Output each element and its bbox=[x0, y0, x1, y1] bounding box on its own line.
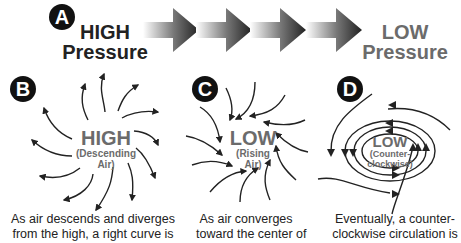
caption-d-line1: Eventually, a counter- bbox=[330, 212, 460, 227]
caption-c-line2: toward the center of bbox=[196, 227, 296, 242]
ccw-center-title: LOW bbox=[360, 134, 420, 149]
caption-b: As air descends and diverges from the hi… bbox=[8, 212, 178, 242]
caption-b-line1: As air descends and diverges bbox=[8, 212, 178, 227]
ccw-center-label: LOW (Counter- clockwise) bbox=[360, 134, 420, 169]
caption-b-line2: from the high, a right curve is bbox=[8, 227, 178, 242]
caption-d-line2: clockwise circulation is bbox=[330, 227, 460, 242]
counterclockwise-circulation-icon bbox=[0, 0, 461, 243]
ccw-center-subtitle-2: clockwise) bbox=[360, 159, 420, 169]
caption-d: Eventually, a counter- clockwise circula… bbox=[330, 212, 460, 242]
caption-c: As air converges toward the center of bbox=[196, 212, 296, 242]
ccw-center-subtitle-1: (Counter- bbox=[360, 149, 420, 159]
caption-c-line1: As air converges bbox=[196, 212, 296, 227]
